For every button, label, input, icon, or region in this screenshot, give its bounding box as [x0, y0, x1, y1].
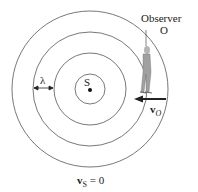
source-velocity-subscript: S: [83, 180, 87, 189]
observer-velocity-subscript: O: [156, 109, 162, 118]
observer-velocity-arrow: [134, 96, 166, 103]
observer-label: Observer: [141, 12, 181, 24]
observer-symbol: O: [160, 24, 168, 36]
wavelength-label: λ: [40, 74, 45, 86]
source-label: S: [84, 76, 90, 88]
source-dot: [88, 88, 92, 92]
source-velocity-value: = 0: [90, 174, 104, 186]
observer-velocity-label: vO: [150, 103, 161, 118]
doppler-diagram: [0, 0, 198, 192]
source-velocity-label: vS = 0: [77, 174, 104, 189]
wavelength-arrow: [34, 86, 53, 90]
